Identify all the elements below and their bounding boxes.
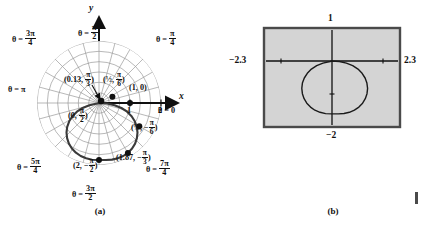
screen-ymin-label: −2 [326, 130, 336, 140]
theta-frac-pi-2: π 2 [91, 24, 98, 42]
point-r-1-87: 1.87 [119, 153, 133, 162]
theta-num-7pi-4: 7π [159, 160, 170, 168]
theta-num-3pi-2: 3π [85, 185, 96, 193]
figure-container: θ = 0 θ = π 4 θ = π 2 θ = 3π 4 θ = [0, 0, 422, 230]
panel-a-polar-graph: θ = 0 θ = π 4 θ = π 2 θ = 3π 4 θ = [0, 0, 215, 230]
theta-frac-5pi-4: 5π 4 [30, 158, 41, 176]
theta-frac-pi-4: π 4 [169, 30, 176, 48]
theta-num-3pi-4: 3π [25, 30, 36, 38]
y-axis-label: y [89, 4, 93, 14]
theta-label-5pi-4: θ = 5π 4 [17, 158, 41, 176]
radial-tick-label-2: 2 [158, 107, 162, 115]
theta-label-3pi-2: θ = 3π 2 [72, 185, 96, 203]
theta-den-3pi-2: 2 [85, 193, 96, 202]
panel-a-caption: (a) [0, 207, 200, 216]
panel-b-caption: (b) [243, 207, 422, 216]
theta-eq-3pi-2: θ = [72, 190, 83, 199]
point-label-0-13: (0.13, π 3 ) [64, 71, 94, 87]
point-close-half-neg-pi6: ) [155, 123, 158, 132]
radial-tick-label-1: 1 [127, 107, 131, 115]
end-of-figure-marker [415, 192, 418, 204]
point-close-0-pi2: ) [85, 111, 88, 120]
theta-label-pi-2: θ = π 2 [78, 24, 98, 42]
point-r-0-13: 0.13 [67, 75, 81, 84]
screen-ymax-label: 1 [328, 13, 333, 23]
theta-label-pi-4: θ = π 4 [156, 30, 176, 48]
theta-den-5pi-4: 4 [30, 166, 41, 175]
theta-num-pi-4: π [169, 30, 176, 38]
point-label-half-pi6: (½, π 6 ) [103, 71, 125, 87]
theta-label-3pi-4: θ = 3π 4 [12, 30, 36, 48]
point-close-0-13: ) [91, 75, 94, 84]
point-label-half-neg-pi6: (½, − π 6 ) [131, 119, 157, 135]
theta-eq-5pi-4: θ = [17, 163, 28, 172]
point-close-2-neg-pi2: ) [95, 161, 98, 170]
point-close-half-pi6: ) [122, 75, 125, 84]
theta-label-pi: θ = π [8, 86, 26, 94]
theta-eq-pi: θ = [8, 85, 19, 94]
theta-eq-pi-2: θ = [78, 29, 89, 38]
theta-den-pi-4: 4 [169, 38, 176, 47]
dot-half-pi6 [109, 94, 115, 100]
x-axis-label: x [179, 92, 184, 102]
point-close-1-87: ) [148, 153, 151, 162]
dot-0-13 [98, 98, 104, 104]
theta-den-3pi-4: 4 [25, 38, 36, 47]
point-label-0-pi2: (0, π 2 ) [68, 107, 88, 123]
theta-frac-7pi-4: 7π 4 [159, 160, 170, 178]
theta-frac-3pi-4: 3π 4 [25, 30, 36, 48]
theta-frac-3pi-2: 3π 2 [85, 185, 96, 203]
theta-den-pi-2: 2 [91, 32, 98, 41]
theta-num-pi-2: π [91, 24, 98, 32]
theta-eq-pi-4: θ = [156, 35, 167, 44]
theta-num-5pi-4: 5π [30, 158, 41, 166]
theta-val-pi: π [21, 85, 26, 94]
point-label-1-87: (1.87, − π 3 ) [116, 149, 151, 165]
point-label-1-0: (1, 0) [129, 84, 147, 92]
calculator-screen-svg [215, 0, 422, 230]
point-label-2-neg-pi2: (2, − π 2 ) [73, 157, 97, 173]
panel-b-calculator-view: 1 −2.3 2.3 −2 (b) [215, 0, 422, 230]
theta-eq-3pi-4: θ = [12, 35, 23, 44]
theta-val-0: 0 [171, 106, 175, 115]
screen-xmax-label: 2.3 [404, 55, 416, 65]
theta-den-7pi-4: 4 [159, 168, 170, 177]
theta-eq-7pi-4: θ = [146, 165, 157, 174]
screen-xmin-label: −2.3 [229, 55, 246, 65]
